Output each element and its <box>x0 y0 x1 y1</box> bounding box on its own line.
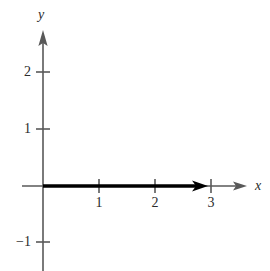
y-tick-label-2: 2 <box>24 65 31 79</box>
y-axis-name-label: y <box>38 8 44 22</box>
x-axis-name-label: x <box>255 179 261 193</box>
x-tick-label-1: 1 <box>96 196 103 210</box>
y-tick-label-minus-1: −1 <box>16 235 31 249</box>
x-tick-label-3: 3 <box>208 196 215 210</box>
y-tick-label-1: 1 <box>24 122 31 136</box>
coordinate-plot-figure: 1 2 3 2 1 −1 x y <box>0 0 270 271</box>
x-tick-label-2: 2 <box>152 196 159 210</box>
plot-canvas <box>0 0 270 271</box>
